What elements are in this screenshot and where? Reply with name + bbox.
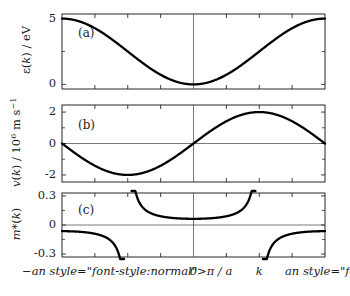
curve-effective-mass-branch-0 — [62, 231, 124, 259]
band-structure-figure: (a)(b)(c)5020-20.30-0.3ε(k) / eVv(k) / 1… — [0, 0, 350, 296]
y-axis-title-panel1: v(k) / 106 m s−1 — [9, 83, 24, 201]
xtick-label-2: an style="font-style:normal">π / a — [285, 264, 350, 278]
panel-tag-c: (c) — [78, 203, 94, 217]
xtick-label-0: −an style="font-style:normal">π / a — [22, 264, 102, 278]
curve-effective-mass-branch-2 — [263, 231, 325, 259]
ytick-label-panel0-0: 5 — [10, 11, 56, 25]
y-axis-title-panel2: m*(k) — [9, 194, 23, 254]
y-axis-title-panel0: ε(k) / eV — [19, 7, 33, 93]
xtick-label-1: 0 — [154, 264, 234, 278]
panel-tag-b: (b) — [78, 118, 95, 132]
panel-tag-a: (a) — [78, 26, 95, 40]
x-axis-title: k — [229, 264, 289, 278]
